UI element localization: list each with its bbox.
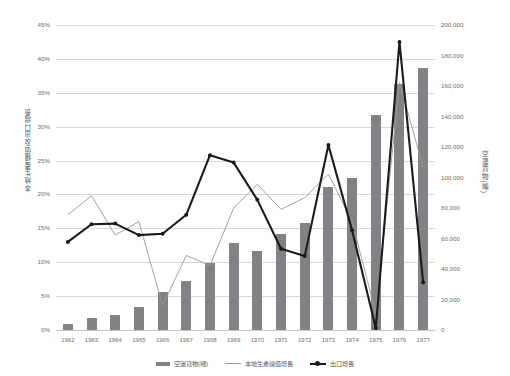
y-axis-left-tick-label: 15% bbox=[10, 224, 50, 231]
legend-swatch-bar-icon bbox=[156, 362, 170, 366]
y-axis-right-tick-label: 60,000 bbox=[441, 235, 497, 242]
y-axis-left-tick-label: 0% bbox=[10, 326, 50, 333]
data-point-marker bbox=[326, 143, 330, 147]
y-axis-left-tick-label: 25% bbox=[10, 157, 50, 164]
y-axis-right-tick-label: 20,000 bbox=[441, 296, 497, 303]
data-point-marker bbox=[161, 232, 165, 236]
line-series bbox=[56, 25, 435, 330]
chart-legend: 空運貨物(噸) 本地生產總值增長 出口增長 bbox=[0, 359, 510, 368]
data-point-marker bbox=[184, 213, 188, 217]
y-axis-right-tick-label: 160,000 bbox=[441, 82, 497, 89]
y-axis-right-tick-label: 100,000 bbox=[441, 174, 497, 181]
line-path bbox=[68, 83, 423, 313]
data-point-marker bbox=[374, 326, 378, 330]
line-path bbox=[68, 42, 423, 328]
y-axis-left-tick-label: 20% bbox=[10, 190, 50, 197]
legend-item-export-growth: 出口增長 bbox=[310, 359, 354, 368]
legend-swatch-marker-line-icon bbox=[310, 361, 326, 366]
gridline bbox=[56, 330, 435, 331]
data-point-marker bbox=[303, 254, 307, 258]
y-axis-right-tick-label: 80,000 bbox=[441, 204, 497, 211]
y-axis-right-tick-label: 120,000 bbox=[441, 143, 497, 150]
data-point-marker bbox=[350, 228, 354, 232]
y-axis-left-tick-label: 35% bbox=[10, 89, 50, 96]
y-axis-right-tick-label: 180,000 bbox=[441, 52, 497, 59]
data-point-marker bbox=[232, 161, 236, 165]
legend-item-gdp-growth: 本地生產總值增長 bbox=[225, 359, 293, 368]
legend-label-air-cargo: 空運貨物(噸) bbox=[174, 359, 208, 368]
y-axis-left-tick-label: 5% bbox=[10, 292, 50, 299]
data-point-marker bbox=[397, 40, 401, 44]
legend-item-air-cargo: 空運貨物(噸) bbox=[156, 359, 208, 368]
y-axis-right-tick-label: 0 bbox=[441, 326, 497, 333]
data-point-marker bbox=[255, 198, 259, 202]
data-point-marker bbox=[137, 233, 141, 237]
y-axis-left-tick-label: 40% bbox=[10, 55, 50, 62]
y-axis-right-tick-label: 40,000 bbox=[441, 265, 497, 272]
data-point-marker bbox=[90, 222, 94, 226]
legend-label-gdp-growth: 本地生產總值增長 bbox=[245, 359, 293, 368]
data-point-marker bbox=[279, 247, 283, 251]
data-point-marker bbox=[421, 281, 425, 285]
data-point-marker bbox=[113, 222, 117, 226]
y-axis-left-tick-label: 10% bbox=[10, 258, 50, 265]
x-axis-tick-label: 1977 bbox=[409, 337, 437, 343]
y-axis-right-title: 空運貨物(噸) bbox=[479, 150, 489, 194]
y-axis-right-tick-label: 200,000 bbox=[441, 21, 497, 28]
plot-area: 1962196319641965196619671968196919701971… bbox=[56, 25, 435, 330]
y-axis-right-tick-label: 140,000 bbox=[441, 113, 497, 120]
y-axis-left-title: 本地生產總值及出口增長 bbox=[24, 108, 34, 192]
legend-swatch-line-icon bbox=[225, 363, 241, 364]
y-axis-left-tick-label: 45% bbox=[10, 21, 50, 28]
data-point-marker bbox=[66, 240, 70, 244]
y-axis-left-tick-label: 30% bbox=[10, 123, 50, 130]
legend-label-export-growth: 出口增長 bbox=[330, 359, 354, 368]
chart-container: 本地生產總值及出口增長 空運貨物(噸) 19621963196419651966… bbox=[0, 0, 510, 376]
data-point-marker bbox=[208, 153, 212, 157]
